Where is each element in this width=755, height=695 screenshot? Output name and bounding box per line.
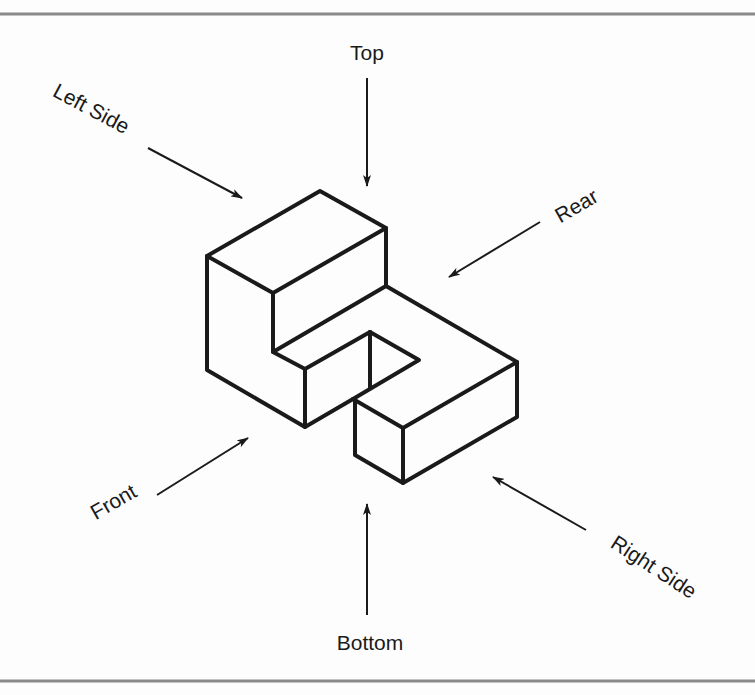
lower-block-front-face	[353, 399, 403, 483]
label-right-side: Right Side	[607, 531, 701, 603]
front-step-bottom-edge	[305, 399, 353, 427]
diagram-figure: Top Left Side Rear Front Bottom Right Si…	[0, 0, 755, 695]
right-side-arrow	[493, 477, 586, 530]
tall-block-top-face	[207, 191, 386, 293]
view-arrows	[148, 78, 586, 615]
isometric-object	[207, 191, 517, 483]
front-arrow	[157, 438, 248, 495]
notch-edges	[353, 332, 419, 399]
lower-block-top-edge	[403, 362, 517, 483]
rear-arrow	[449, 222, 540, 277]
label-rear: Rear	[551, 184, 602, 227]
left-side-arrow	[148, 148, 242, 198]
label-bottom: Bottom	[337, 631, 404, 654]
label-front: Front	[86, 479, 140, 524]
step-front-top-edge	[305, 332, 370, 369]
label-left-side: Left Side	[50, 79, 134, 138]
diagram-canvas: Top Left Side Rear Front Bottom Right Si…	[0, 0, 755, 695]
label-top: Top	[350, 41, 384, 64]
